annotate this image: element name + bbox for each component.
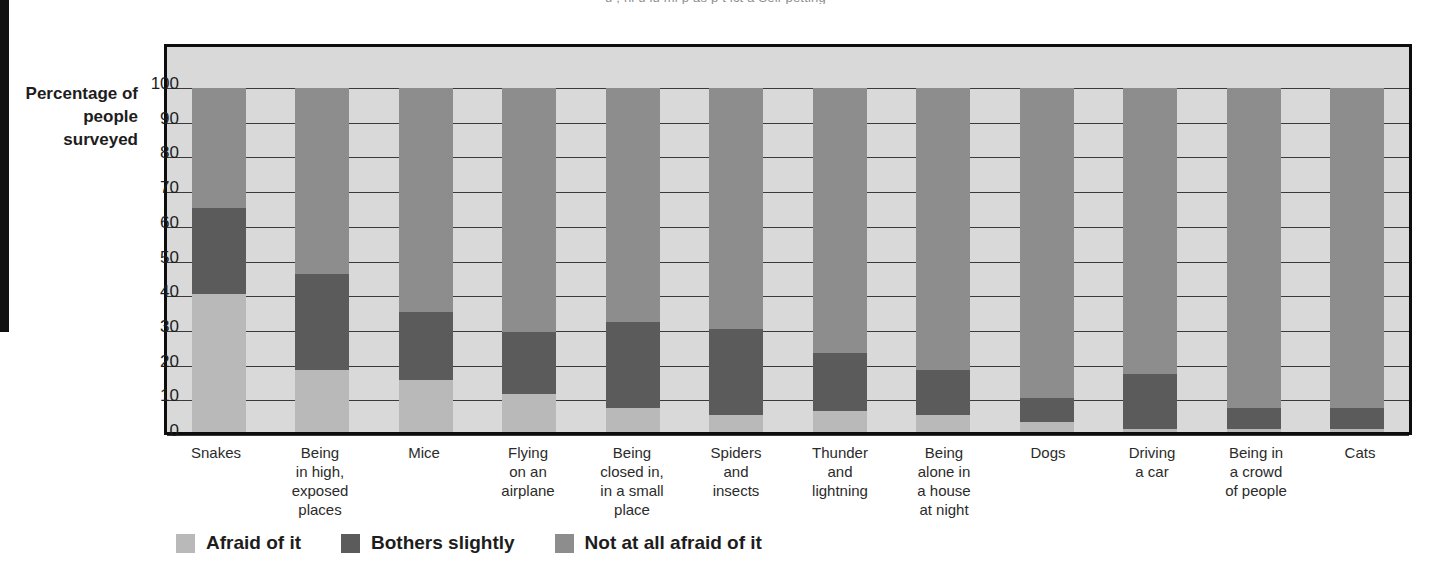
y-axis-tick-label: 0	[127, 421, 179, 441]
legend-swatch	[341, 534, 360, 553]
y-axis-title: Percentage of people surveyed	[18, 82, 138, 151]
x-axis-label-line: Mice	[372, 443, 476, 462]
stacked-bar[interactable]	[502, 88, 556, 432]
y-axis-tick-label: 50	[127, 248, 179, 268]
bar-segment	[1123, 374, 1177, 429]
legend-label: Not at all afraid of it	[585, 532, 762, 554]
x-axis-label-line: Being	[268, 443, 372, 462]
bar-slot	[478, 88, 582, 432]
bar-segment	[709, 329, 763, 415]
stacked-bar[interactable]	[606, 88, 660, 432]
x-axis-label: Thunderandlightning	[788, 443, 892, 538]
x-axis-label-line: lightning	[788, 481, 892, 500]
bar-segment	[606, 88, 660, 322]
x-axis-label-line: and	[788, 462, 892, 481]
y-axis-tick-label: 80	[127, 143, 179, 163]
bar-segment	[1020, 398, 1074, 422]
bar-segment	[502, 394, 556, 432]
bar-segment	[1227, 429, 1281, 432]
x-axis-label-line: and	[684, 462, 788, 481]
legend-label: Bothers slightly	[371, 532, 515, 554]
bar-segment	[1020, 88, 1074, 398]
x-axis-label-line: Being	[892, 443, 996, 462]
bar-segment	[399, 88, 453, 312]
stacked-bar[interactable]	[1330, 88, 1384, 432]
bar-segment	[192, 208, 246, 294]
x-axis-label: Beingalone ina houseat night	[892, 443, 996, 538]
x-axis-label-line: Snakes	[164, 443, 268, 462]
stacked-bar[interactable]	[295, 88, 349, 432]
bar-segment	[1227, 408, 1281, 429]
bar-slot	[271, 88, 375, 432]
bar-segment	[606, 322, 660, 408]
plot-inner-region	[167, 88, 1409, 432]
clipped-title-text: u ; hi u iu ml p as p t ict a Sell-petti…	[0, 0, 1431, 4]
legend-item[interactable]: Afraid of it	[176, 532, 301, 554]
y-axis-tick-label: 100	[127, 74, 179, 94]
x-axis-label: Flyingon anairplane	[476, 443, 580, 538]
x-axis-label-line: on an	[476, 462, 580, 481]
legend-item[interactable]: Bothers slightly	[341, 532, 515, 554]
x-axis-label: Cats	[1308, 443, 1412, 538]
x-axis-label-line: in high,	[268, 462, 372, 481]
stacked-bar[interactable]	[399, 88, 453, 432]
x-axis-label-line: in a small	[580, 481, 684, 500]
x-axis-label-line: Dogs	[996, 443, 1100, 462]
bar-segment	[295, 88, 349, 274]
bar-segment	[916, 88, 970, 370]
bar-segment	[399, 312, 453, 381]
legend-label: Afraid of it	[206, 532, 301, 554]
bar-segment	[295, 370, 349, 432]
bar-segment	[502, 88, 556, 332]
bar-slot	[788, 88, 892, 432]
bar-segment	[192, 88, 246, 208]
x-axis-label-line: Driving	[1100, 443, 1204, 462]
x-axis-label-line: Being	[580, 443, 684, 462]
x-axis-label-line: at night	[892, 500, 996, 519]
x-axis-label-line: a crowd	[1204, 462, 1308, 481]
bar-segment	[1330, 408, 1384, 429]
bar-slot	[685, 88, 789, 432]
x-axis-label: Beingin high,exposedplaces	[268, 443, 372, 538]
y-axis-tick-label: 90	[127, 109, 179, 129]
bar-segment	[1123, 88, 1177, 374]
x-axis-label-line: Spiders	[684, 443, 788, 462]
bar-segment	[813, 411, 867, 432]
x-axis-label-line: place	[580, 500, 684, 519]
y-axis-tick-label: 20	[127, 352, 179, 372]
stacked-bar[interactable]	[916, 88, 970, 432]
x-axis-label-line: Cats	[1308, 443, 1412, 462]
stacked-bar[interactable]	[709, 88, 763, 432]
bar-slot	[167, 88, 271, 432]
stacked-bar[interactable]	[1020, 88, 1074, 432]
x-axis-label-line: Being in	[1204, 443, 1308, 462]
x-axis-label-line: Flying	[476, 443, 580, 462]
stacked-bar[interactable]	[192, 88, 246, 432]
bar-slot	[1202, 88, 1306, 432]
bar-slot	[374, 88, 478, 432]
bar-slot	[1306, 88, 1410, 432]
bar-slot	[892, 88, 996, 432]
x-axis-label-line: exposed	[268, 481, 372, 500]
bars-container	[167, 88, 1409, 432]
legend-swatch	[555, 534, 574, 553]
stacked-bar[interactable]	[1227, 88, 1281, 432]
x-axis-label: Mice	[372, 443, 476, 538]
bar-segment	[709, 88, 763, 329]
x-axis-label-line: airplane	[476, 481, 580, 500]
bar-slot	[581, 88, 685, 432]
x-axis-label: Snakes	[164, 443, 268, 538]
bar-segment	[916, 415, 970, 432]
x-axis-label: Drivinga car	[1100, 443, 1204, 538]
bar-slot	[995, 88, 1099, 432]
bar-segment	[502, 332, 556, 394]
stacked-bar[interactable]	[1123, 88, 1177, 432]
x-axis-label-line: of people	[1204, 481, 1308, 500]
y-axis-tick-label: 30	[127, 317, 179, 337]
bar-segment	[709, 415, 763, 432]
bar-segment	[192, 294, 246, 432]
stacked-bar[interactable]	[813, 88, 867, 432]
legend-item[interactable]: Not at all afraid of it	[555, 532, 762, 554]
x-axis-label: Beingclosed in,in a smallplace	[580, 443, 684, 538]
bar-segment	[813, 353, 867, 411]
